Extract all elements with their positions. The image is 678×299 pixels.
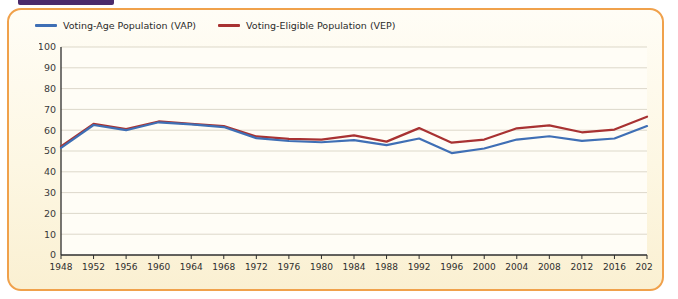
y-axis-tick-label: 70 [44, 104, 56, 115]
x-axis-tick-label: 1996 [440, 262, 463, 272]
x-axis-tick-label: 1992 [408, 262, 431, 272]
y-axis-tick-label: 10 [44, 229, 56, 240]
x-axis-tick-label: 2000 [473, 262, 496, 272]
y-axis-tick-label: 0 [50, 249, 56, 260]
y-axis-tick-label: 20 [44, 208, 56, 219]
chart-card: Voting-Age Population (VAP) Voting-Eligi… [7, 8, 664, 291]
legend-swatch-vap [35, 24, 57, 27]
y-axis-tick-label: 90 [44, 62, 56, 73]
chapter-tab-label: CHAPTER [26, 0, 61, 1]
x-axis-tick-label: 1988 [375, 262, 398, 272]
y-axis-tick-label: 30 [44, 187, 56, 198]
plot-area: 0102030405060708090100194819521956196019… [39, 39, 653, 281]
y-axis-tick-label: 60 [44, 125, 56, 136]
y-axis-tick-label: 40 [44, 166, 56, 177]
x-axis-tick-label: 1980 [310, 262, 333, 272]
x-axis-tick-label: 1964 [180, 262, 203, 272]
chart-legend: Voting-Age Population (VAP) Voting-Eligi… [35, 20, 396, 31]
legend-swatch-vep [218, 24, 240, 27]
chart-screenshot: CHAPTER Voting-Age Population (VAP) Voti… [0, 0, 678, 299]
legend-label-vap: Voting-Age Population (VAP) [63, 20, 196, 31]
page-heading-sliver [120, 0, 664, 5]
x-axis-tick-label: 1984 [343, 262, 366, 272]
x-axis-tick-label: 1976 [277, 262, 300, 272]
x-axis-tick-label: 1968 [212, 262, 235, 272]
x-axis-tick-label: 1972 [245, 262, 268, 272]
x-axis-tick-label: 2008 [538, 262, 561, 272]
line-chart-svg: 0102030405060708090100194819521956196019… [39, 39, 653, 281]
legend-item-vap[interactable]: Voting-Age Population (VAP) [35, 20, 196, 31]
x-axis-tick-label: 1956 [115, 262, 138, 272]
x-axis-tick-label: 1952 [82, 262, 105, 272]
x-axis-tick-label: 2020 [636, 262, 653, 272]
x-axis-tick-label: 2004 [505, 262, 528, 272]
y-axis-tick-label: 100 [39, 41, 56, 52]
x-axis-tick-label: 2016 [603, 262, 626, 272]
y-axis-tick-label: 80 [44, 83, 56, 94]
x-axis-tick-label: 2012 [570, 262, 593, 272]
legend-label-vep: Voting-Eligible Population (VEP) [246, 20, 395, 31]
y-axis-tick-label: 50 [44, 145, 56, 156]
legend-item-vep[interactable]: Voting-Eligible Population (VEP) [218, 20, 395, 31]
x-axis-tick-label: 1948 [50, 262, 73, 272]
x-axis-tick-label: 1960 [147, 262, 170, 272]
